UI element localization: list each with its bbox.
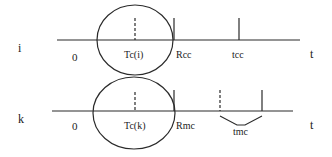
origin-label-i: 0 [72,51,78,63]
interval-bracket-tmc [220,116,262,125]
marker-label-tcc: tcc [232,49,244,60]
interval-label-tmc: tmc [233,126,249,137]
origin-label-k: 0 [72,120,78,132]
boundary-label-rmc: Rmc [176,120,195,131]
axis-label-t-k: t [310,118,314,132]
timeline-k: k 0 Tc(k) Rmc tmc t [18,77,314,149]
row-label-i: i [18,41,22,55]
boundary-label-rcc: Rcc [176,49,192,60]
axis-label-t-i: t [310,47,314,61]
row-label-k: k [18,112,24,126]
center-label-i: Tc(i) [124,49,143,61]
region-ellipse-k [93,77,175,149]
timing-diagram: i 0 Tc(i) Rcc tcc t k 0 Tc(k) Rmc tmc t [0,0,332,157]
center-label-k: Tc(k) [124,120,146,132]
timeline-i: i 0 Tc(i) Rcc tcc t [18,5,314,75]
